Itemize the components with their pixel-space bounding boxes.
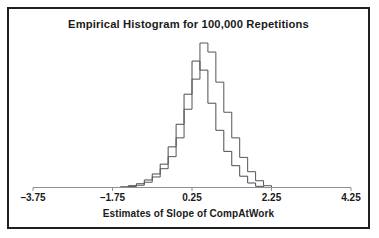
x-axis-tick-label: –1.75	[100, 192, 125, 203]
figure-frame: Empirical Histogram for 100,000 Repetiti…	[7, 7, 370, 229]
x-axis-tick-group	[33, 188, 351, 192]
x-axis-tick-labels: –3.75–1.750.252.254.25	[9, 192, 368, 208]
x-axis-title: Estimates of Slope of CompAtWork	[9, 208, 368, 219]
plot-area	[9, 31, 368, 191]
histogram-series-group	[120, 43, 271, 187]
x-axis-tick-label: 0.25	[182, 192, 201, 203]
x-axis-tick-label: 2.25	[262, 192, 281, 203]
x-axis-tick-label: 4.25	[341, 192, 360, 203]
histogram-outline	[128, 43, 271, 187]
histogram-plot	[9, 31, 368, 191]
page-title: Empirical Histogram for 100,000 Repetiti…	[9, 18, 368, 30]
x-axis-tick-label: –3.75	[20, 192, 45, 203]
figure-inner: Empirical Histogram for 100,000 Repetiti…	[9, 9, 368, 227]
